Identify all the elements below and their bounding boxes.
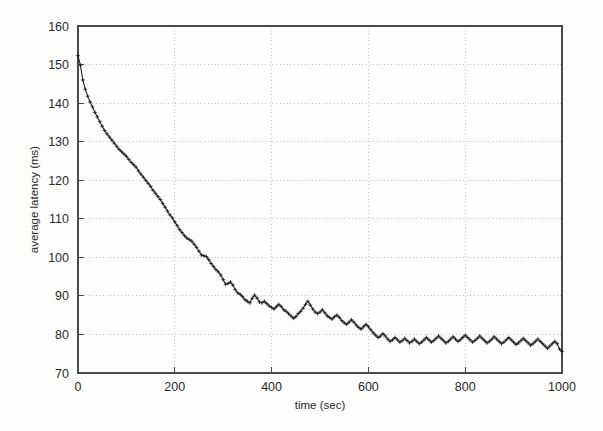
y-axis-tick-labels: 708090100110120130140150160 xyxy=(48,20,69,381)
y-tick-label-80: 80 xyxy=(55,328,69,342)
y-tick-label-90: 90 xyxy=(55,289,69,303)
y-tick-label-130: 130 xyxy=(48,135,69,149)
y-tick-label-160: 160 xyxy=(48,20,69,34)
y-tick-label-100: 100 xyxy=(48,251,69,265)
y-tick-label-140: 140 xyxy=(48,97,69,111)
gridlines xyxy=(78,26,562,373)
x-axis-title: time (sec) xyxy=(295,399,346,411)
y-axis-title: average latency (ms) xyxy=(28,146,40,254)
y-tick-label-150: 150 xyxy=(48,58,69,72)
data-series-line xyxy=(78,56,562,352)
x-tick-label-1000: 1000 xyxy=(548,380,576,394)
x-tick-label-600: 600 xyxy=(358,380,379,394)
y-tick-label-120: 120 xyxy=(48,174,69,188)
series-line-0 xyxy=(78,56,562,352)
latency-line-chart: 708090100110120130140150160 020040060080… xyxy=(0,0,603,431)
y-tick-label-110: 110 xyxy=(49,212,69,226)
x-tick-label-0: 0 xyxy=(75,380,82,394)
axis-ticks xyxy=(78,26,562,373)
x-tick-label-400: 400 xyxy=(261,380,282,394)
x-tick-label-200: 200 xyxy=(164,380,185,394)
data-point-markers xyxy=(76,54,564,354)
figure-canvas: 708090100110120130140150160 020040060080… xyxy=(0,0,603,431)
x-tick-label-800: 800 xyxy=(455,380,476,394)
x-axis-tick-labels: 02004006008001000 xyxy=(75,380,576,394)
plot-frame xyxy=(78,26,562,373)
y-tick-label-70: 70 xyxy=(55,367,69,381)
